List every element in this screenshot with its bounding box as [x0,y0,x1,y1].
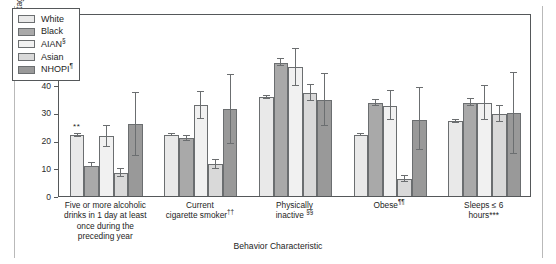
bar [448,121,463,196]
bar [208,164,223,196]
category-footnote-marker: ¶¶ [398,198,405,205]
error-bar-cap-upper [88,162,95,163]
error-bar [295,49,296,87]
bar [354,135,369,196]
error-bar-cap-lower [168,135,175,136]
category-label-line: Sleeps ≤ 6 [428,200,539,210]
legend-item-label: AIAN§ [41,40,66,49]
error-bar-cap-lower [212,168,219,169]
legend-swatch-icon [18,28,35,36]
bar [368,103,383,196]
error-bar-cap-lower [197,118,204,119]
bar [274,63,289,196]
y-tick-label: 10 [41,164,51,174]
error-bar-cap-upper [227,74,234,75]
error-bar-cap-upper [103,125,110,126]
error-bar-cap-lower [452,122,459,123]
error-bar-cap-lower [496,121,503,122]
error-bar-cap-upper [132,92,139,93]
error-bar-cap-lower [481,119,488,120]
error-bar-cap-upper [467,98,474,99]
y-tick-label: 30 [41,108,51,118]
legend-item-asian[interactable]: Asian [18,51,73,64]
y-tick-line [54,197,58,198]
y-axis-tick: 0 [0,197,58,198]
legend-swatch-icon [18,40,35,48]
legend-swatch-icon [18,53,35,61]
error-bar-cap-lower [292,85,299,86]
legend-item-label: NHOPI¶ [41,65,73,74]
error-bar-cap-lower [117,176,124,177]
bar [463,103,478,196]
legend-footnote-marker: ¶ [70,62,74,69]
error-bar [135,93,136,156]
legend: WhiteBlackAIAN§AsianNHOPI¶ [12,8,80,81]
error-bar-cap-lower [510,153,517,154]
y-axis-tick: 20 [0,142,58,143]
error-bar [106,126,107,147]
error-bar-cap-upper [183,135,190,136]
error-bar-cap-upper [263,95,270,96]
error-bar-cap-lower [387,119,394,120]
bar [179,138,194,196]
error-bar-cap-upper [277,58,284,59]
error-bar-cap-upper [496,105,503,106]
legend-item-label: White [41,15,64,24]
y-tick-label: 40 [41,81,51,91]
error-bar-cap-upper [321,73,328,74]
y-tick-label: 20 [41,136,51,146]
category-footnote-marker: †† [227,209,234,216]
legend-item-label: Asian [41,53,64,62]
error-bar-cap-lower [357,135,364,136]
legend-swatch-icon [18,15,35,23]
plot-area: ** [58,14,531,197]
bar [259,97,274,196]
error-bar-cap-upper [401,175,408,176]
error-bar-cap-lower [307,100,314,101]
error-bar-cap-lower [227,143,234,144]
error-bar-cap-lower [372,105,379,106]
legend-footnote-marker: § [62,37,66,44]
x-axis-title: Behavior Characteristic [0,241,556,251]
error-bar-cap-upper [510,72,517,73]
legend-item-label: Black [41,27,63,36]
error-bar-cap-upper [307,84,314,85]
category-footnote-marker: §§ [306,209,313,216]
error-bar-cap-upper [357,133,364,134]
y-axis-tick: 40 [0,86,58,87]
category-label-line: hours*** [428,210,539,220]
error-bar [200,92,201,120]
error-bar-cap-lower [467,105,474,106]
bar [84,166,99,197]
error-bar [419,88,420,150]
legend-item-nhopi[interactable]: NHOPI¶ [18,63,73,76]
error-bar-cap-upper [168,133,175,134]
error-bar [324,74,325,126]
error-bar-cap-lower [88,166,95,167]
bar [303,93,318,196]
y-axis-tick: 30 [0,114,58,115]
category-label-line: preceding year [50,231,161,241]
y-axis-tick: 10 [0,169,58,170]
legend-item-white[interactable]: White [18,13,73,26]
error-bar-cap-upper [387,90,394,91]
x-axis-category-label: Sleeps ≤ 6hours*** [428,200,539,221]
error-bar [310,85,311,101]
category-label-line: inactive §§ [239,210,350,220]
error-bar [499,106,500,122]
error-bar-cap-lower [321,125,328,126]
legend-swatch-icon [18,66,35,74]
legend-item-aian[interactable]: AIAN§ [18,38,73,51]
error-bar-cap-lower [132,155,139,156]
error-bar-cap-upper [197,91,204,92]
bar [70,135,85,196]
error-bar-cap-upper [481,85,488,86]
error-bar-cap-upper [372,99,379,100]
error-bar [484,86,485,120]
error-bar-cap-lower [277,65,284,66]
error-bar [390,91,391,119]
error-bar-cap-lower [74,136,81,137]
error-bar-cap-lower [263,98,270,99]
bar [164,135,179,196]
significance-marker: ** [73,123,80,131]
